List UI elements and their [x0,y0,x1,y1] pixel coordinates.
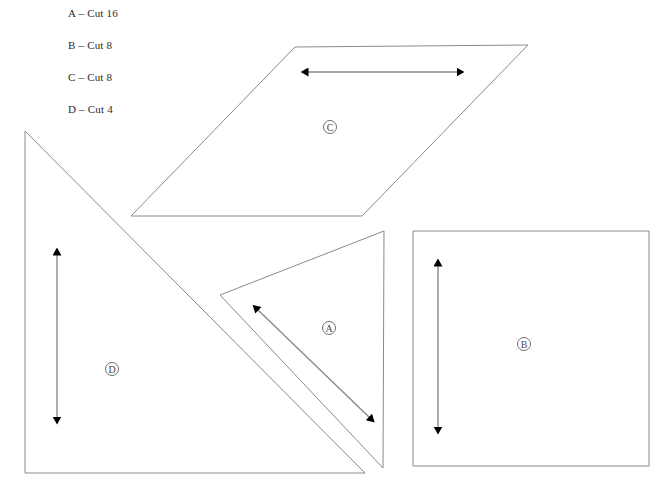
shape-label-c: C [323,120,337,134]
pattern-diagram-page: A – Cut 16 B – Cut 8 C – Cut 8 D – Cut 4… [0,0,671,497]
legend-item-d: D – Cut 4 [68,104,248,115]
shape-label-a: A [322,321,336,335]
legend-item-c: C – Cut 8 [68,72,248,83]
legend-item-a: A – Cut 16 [68,8,248,19]
cut-legend: A – Cut 16 B – Cut 8 C – Cut 8 D – Cut 4 [68,8,248,136]
shape-b-square [413,231,649,466]
legend-item-b: B – Cut 8 [68,40,248,51]
shape-label-d: D [105,362,119,376]
shape-label-b: B [517,337,531,351]
